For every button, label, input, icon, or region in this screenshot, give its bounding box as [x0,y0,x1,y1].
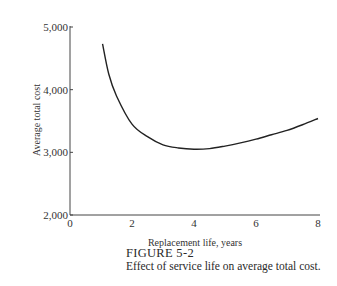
x-tick-label: 8 [315,217,321,229]
figure-label: FIGURE 5-2 [126,246,194,261]
y-tick-label: 3,000 [43,146,68,158]
y-tick-labels: 2,0003,0004,0005,000 [43,21,73,221]
y-tick-label: 2,000 [43,209,68,221]
x-tick-label: 6 [253,217,259,229]
y-axis-label: Average total cost [31,84,42,156]
x-tick-label: 2 [129,217,135,229]
y-tick-label: 4,000 [43,84,68,96]
x-tick-labels: 02468 [67,217,321,229]
chart: 2,0003,0004,0005,000 02468 Average total… [0,0,337,286]
y-tick-label: 5,000 [43,21,68,33]
x-tick-label: 0 [67,217,73,229]
figure-caption: Effect of service life on average total … [126,260,321,272]
cost-curve [103,44,318,149]
x-tick-label: 4 [191,217,197,229]
